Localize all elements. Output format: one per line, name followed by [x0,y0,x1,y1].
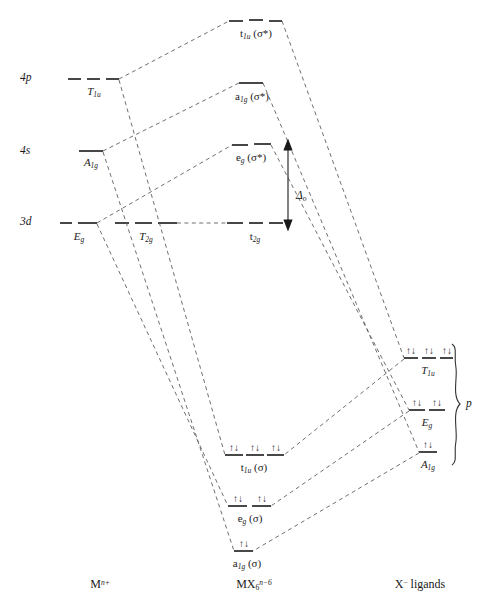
corr-3d-to-eg-anti [97,145,232,223]
electron-pair-ligand-eg-1: ↑↓ [412,398,422,408]
axis-label-4p: 4p [20,72,32,84]
term-label-T1u-metal: T1u [87,86,101,98]
term-label-Eg-ligand: Eg [422,417,432,429]
axis-label-3d: 3d [20,216,32,228]
corr-3d-to-eg-bond [97,224,228,506]
electron-pair-t1u-bond-1: ↑↓ [229,443,239,453]
term-label-Eg-metal: Eg [74,231,84,243]
mo-label-eg-antibonding: eg (σ*) [236,152,266,164]
ligand-brace-label: p [466,398,472,410]
term-label-A1g-metal: A1g [84,157,98,169]
delta-arrow-head-down [284,220,292,230]
electron-pair-ligand-a1g-1: ↑↓ [423,440,433,450]
electron-pair-t1u-bond-2: ↑↓ [250,443,260,453]
delta-o-arrow-group [284,140,292,230]
corr-a1g-anti-to-ligand [263,83,419,452]
term-label-T1u-ligand: T1u [421,365,435,377]
electron-pair-eg-bond-1: ↑↓ [233,494,243,504]
corr-eg-anti-to-ligand [271,145,409,410]
corr-4s-to-a1g-anti [103,83,239,151]
mo-label-eg-bonding: eg (σ) [238,513,263,525]
mo-label-a1g-antibonding: a1g (σ*) [235,91,269,103]
mo-diagram-canvas: 4p 4s 3d T1u A1g Eg T2g t1u (σ*) a1g (σ*… [0,0,479,598]
corr-4p-to-t1u-bond [119,80,225,455]
delta-o-label: Δo [296,190,307,202]
electron-pair-eg-bond-2: ↑↓ [257,494,267,504]
electron-pair-t1u-bond-3: ↑↓ [271,443,281,453]
corr-ligand-eg-to-bond [271,411,409,506]
electron-pair-ligand-eg-2: ↑↓ [432,398,442,408]
electron-pair-a1g-bond-1: ↑↓ [239,539,249,549]
corr-4s-to-a1g-bond [103,152,234,551]
corr-4p-to-t1u-anti [119,21,229,79]
mo-label-t2g: t2g [250,231,261,243]
electron-pair-ligand-t1u-1: ↑↓ [406,346,416,356]
term-label-A1g-ligand: A1g [421,459,435,471]
ligand-brace-path [452,344,460,465]
column-caption-complex: MX6n−6 [236,578,272,591]
corr-ligand-t1u-to-bond [284,359,404,455]
mo-label-t1u-antibonding: t1u (σ*) [240,28,272,40]
column-caption-ligands: X− ligands [395,578,446,590]
mo-label-a1g-bonding: a1g (σ) [233,558,261,570]
corr-ligand-a1g-to-bond [253,453,419,551]
electron-pair-ligand-t1u-3: ↑↓ [442,346,452,356]
electron-pair-ligand-t1u-2: ↑↓ [424,346,434,356]
term-label-T2g-metal: T2g [139,231,153,243]
axis-label-4s: 4s [20,145,30,157]
column-caption-metal: Mn+ [90,578,109,590]
delta-arrow-head-up [284,140,292,150]
metal-orbital-bars [60,79,177,223]
mo-label-t1u-bonding: t1u (σ) [241,462,268,474]
